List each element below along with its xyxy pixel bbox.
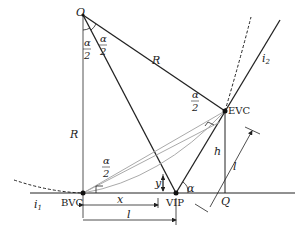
label-r-slant: R [151,54,160,67]
label-l-slant: l [233,160,237,173]
label-i2: i2 [262,52,271,66]
label-x: x [117,193,124,206]
vip-point [174,191,179,196]
label-r-vertical: R [69,128,78,141]
bvc-point [81,191,86,196]
angle-arc-o-left [83,28,90,30]
label-o: O [76,6,85,19]
label-evc: EVC [228,105,251,116]
label-y: y [154,177,162,190]
label-vip: VIP [165,197,184,208]
label-alpha: α [187,182,195,195]
chord-line [83,111,225,193]
label-q: Q [221,195,230,208]
dashed-curve-left [14,180,83,193]
vertical-curve-diagram: O R R α 2 α 2 α 2 α 2 EVC BVC VIP Q h l … [0,0,305,235]
label-bvc: BVC [61,197,84,208]
dashed-curve-right [225,17,251,111]
label-h: h [214,145,221,158]
label-alpha-half-bvc-num: α [103,155,110,166]
label-alpha-half-2-num: α [100,33,107,44]
svg-text:2: 2 [191,102,198,113]
evc-point [223,109,228,114]
svg-text:2: 2 [102,168,109,179]
svg-text:2: 2 [99,46,106,57]
label-alpha-half-1-num: α [84,37,91,48]
label-i1: i1 [34,198,42,212]
svg-text:2: 2 [83,50,90,61]
label-l: l [127,208,131,221]
slant-l-dimension [210,131,252,207]
label-alpha-half-evc-num: α [192,89,199,100]
angle-arc-o-right [91,24,96,30]
